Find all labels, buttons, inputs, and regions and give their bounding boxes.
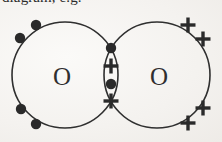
electron-cross (104, 94, 119, 109)
electron-dot (106, 79, 116, 89)
dot-and-cross-diagram: O O (0, 0, 222, 142)
scanned-figure-page: diagram, e.g. O O (0, 0, 222, 142)
electron-dot (15, 33, 25, 43)
electron-cross (196, 101, 211, 116)
left-atom-label: O (53, 63, 71, 90)
electron-dot (31, 119, 41, 129)
right-atom-electrons (181, 18, 211, 131)
electron-dot (106, 43, 116, 53)
right-atom-label: O (150, 63, 168, 90)
electron-cross (181, 116, 196, 131)
electron-cross (196, 32, 211, 47)
electron-dot (31, 20, 41, 30)
electron-dot (16, 104, 26, 114)
atom-circles-group (12, 22, 210, 128)
electron-cross (181, 18, 196, 33)
shared-electron-pair-group (104, 43, 119, 109)
